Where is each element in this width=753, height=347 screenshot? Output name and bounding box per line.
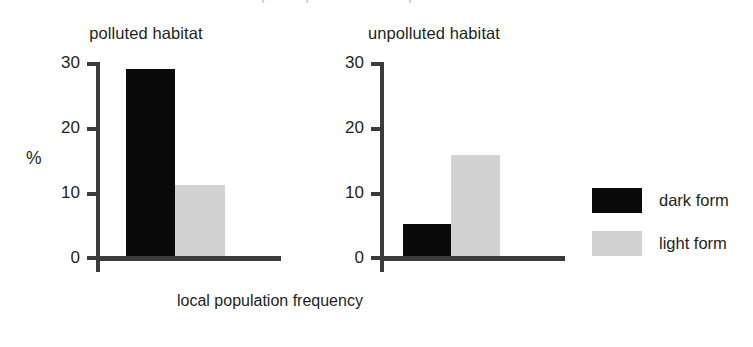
y-axis-unit-label: % <box>26 148 42 169</box>
legend-item-dark-form: dark form <box>592 183 729 217</box>
plot-area-unpolluted <box>403 56 553 256</box>
panel-title-polluted: polluted habitat <box>0 24 296 43</box>
y-tick-label-10: 10 <box>47 183 80 203</box>
bar-unpolluted-dark-form <box>403 224 451 256</box>
panel-title-unpolluted: unpolluted habitat <box>284 24 584 43</box>
y-tick-label-10: 10 <box>331 183 364 203</box>
y-tick-label-20: 20 <box>331 118 364 138</box>
x-axis-baseline <box>380 256 565 261</box>
legend: dark form light form <box>592 183 729 269</box>
bar-polluted-dark-form <box>126 69 175 256</box>
legend-item-light-form: light form <box>592 226 729 260</box>
legend-label-light-form: light form <box>659 234 727 253</box>
y-tick-label-30: 30 <box>331 53 364 73</box>
y-tick-label-0: 0 <box>47 248 80 268</box>
y-axis-spine <box>96 62 100 272</box>
bar-chart-figure: morphs in polluted and unpolluted habita… <box>0 0 753 347</box>
plot-area-polluted <box>126 56 276 256</box>
panel-polluted-habitat: polluted habitat % 30 20 10 0 <box>0 0 300 300</box>
legend-swatch-light-form <box>592 231 642 256</box>
legend-swatch-dark-form <box>592 188 642 213</box>
y-tick-label-20: 20 <box>47 118 80 138</box>
panel-unpolluted-habitat: unpolluted habitat 30 20 10 0 <box>284 0 584 300</box>
y-tick-label-30: 30 <box>47 53 80 73</box>
x-axis-baseline <box>96 256 281 261</box>
legend-label-dark-form: dark form <box>659 191 729 210</box>
bar-polluted-light-form <box>175 185 225 256</box>
bar-unpolluted-light-form <box>451 155 500 256</box>
y-axis-spine <box>380 62 384 272</box>
y-tick-label-0: 0 <box>331 248 364 268</box>
x-axis-caption: local population frequency <box>177 292 363 310</box>
